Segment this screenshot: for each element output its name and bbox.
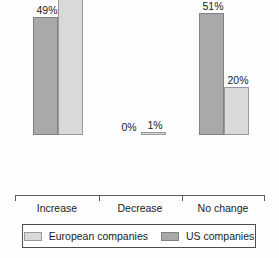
bar-value-label: 51% xyxy=(193,0,233,12)
x-axis-label-increase: Increase xyxy=(12,201,102,215)
bar-chart: 49% 70% 0% 1% 51% 20% xyxy=(0,0,279,258)
bar-value-label: 20% xyxy=(218,74,258,86)
legend-item-european-companies[interactable]: European companies xyxy=(24,230,148,242)
legend-label: European companies xyxy=(49,230,148,242)
legend-item-us-companies[interactable]: US companies xyxy=(161,230,254,242)
bar-no-change-european-companies[interactable]: 20% xyxy=(224,87,249,135)
x-axis-label-decrease: Decrease xyxy=(95,201,185,215)
legend-swatch-icon xyxy=(24,232,42,241)
chart-legend: European companies US companies xyxy=(22,224,256,248)
bar-decrease-european-companies[interactable]: 1% xyxy=(141,132,166,135)
x-axis-line xyxy=(15,195,265,196)
bar-value-label: 1% xyxy=(135,119,175,131)
x-axis-label-no-change: No change xyxy=(178,201,268,215)
bar-increase-european-companies[interactable]: 70% xyxy=(58,0,83,135)
legend-label: US companies xyxy=(186,230,254,242)
plot-area: 49% 70% 0% 1% 51% 20% xyxy=(0,0,279,197)
bar-increase-us-companies[interactable]: 49% xyxy=(33,17,58,135)
legend-swatch-icon xyxy=(161,232,179,241)
